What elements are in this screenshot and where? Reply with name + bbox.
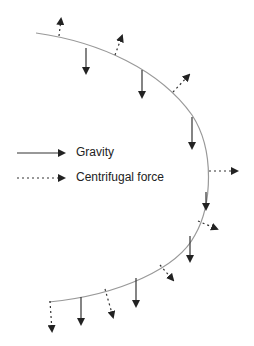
legend-centrifugal-label: Centrifugal force bbox=[76, 170, 164, 184]
gravity-arrows bbox=[81, 48, 206, 324]
legend-gravity-label: Gravity bbox=[76, 145, 114, 159]
curve-path bbox=[36, 33, 209, 302]
